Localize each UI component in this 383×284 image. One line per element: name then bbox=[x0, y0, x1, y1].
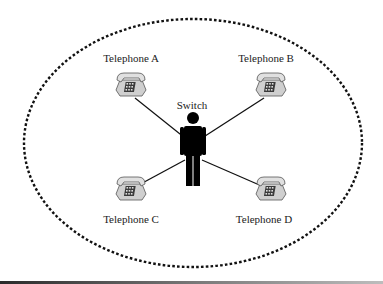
diagram-graphics bbox=[0, 0, 383, 284]
telephone-c-label: Telephone C bbox=[103, 213, 159, 225]
telephone-icon bbox=[256, 73, 286, 96]
switch-label: Switch bbox=[177, 99, 208, 111]
telephone-icon bbox=[116, 73, 146, 96]
star-topology-diagram: Telephone A Telephone B Switch Telephone… bbox=[0, 0, 383, 284]
telephone-icon bbox=[116, 177, 146, 200]
telephone-icon bbox=[256, 177, 286, 200]
link-switch-telephone-d bbox=[202, 160, 264, 187]
link-switch-telephone-b bbox=[202, 98, 264, 138]
person-icon bbox=[180, 112, 206, 186]
telephone-b-label: Telephone B bbox=[238, 52, 294, 64]
telephone-a-label: Telephone A bbox=[103, 52, 159, 64]
telephone-d-label: Telephone D bbox=[236, 213, 292, 225]
